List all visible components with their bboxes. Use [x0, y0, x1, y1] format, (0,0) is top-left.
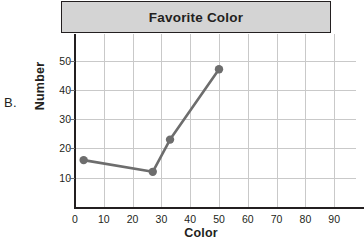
x-tick-label: 90 [328, 213, 340, 225]
x-tick-label: 70 [271, 213, 283, 225]
x-tick-label: 30 [156, 213, 168, 225]
item-letter-label: B. [4, 95, 17, 110]
plot-area: 1020304050 0102030405060708090 [68, 34, 356, 208]
chart-title-banner: Favorite Color [61, 1, 331, 33]
x-tick-label: 40 [184, 213, 196, 225]
data-point-marker [149, 168, 157, 176]
y-axis-title: Number [33, 43, 49, 129]
x-axis-title: Color [61, 226, 341, 240]
x-tick-label: 50 [213, 213, 225, 225]
chart-area: Favorite Color 1020304050 01020304050607… [61, 1, 356, 208]
series-line [84, 69, 219, 172]
x-tick-label: 60 [242, 213, 254, 225]
x-tick-label: 0 [72, 213, 78, 225]
x-tick-label: 10 [98, 213, 110, 225]
data-point-marker [79, 156, 87, 164]
data-series [68, 34, 356, 209]
x-tick-label: 20 [127, 213, 139, 225]
data-point-marker [166, 135, 174, 143]
chart-title: Favorite Color [149, 10, 243, 25]
x-tick-label: 80 [300, 213, 312, 225]
data-point-marker [215, 65, 223, 73]
